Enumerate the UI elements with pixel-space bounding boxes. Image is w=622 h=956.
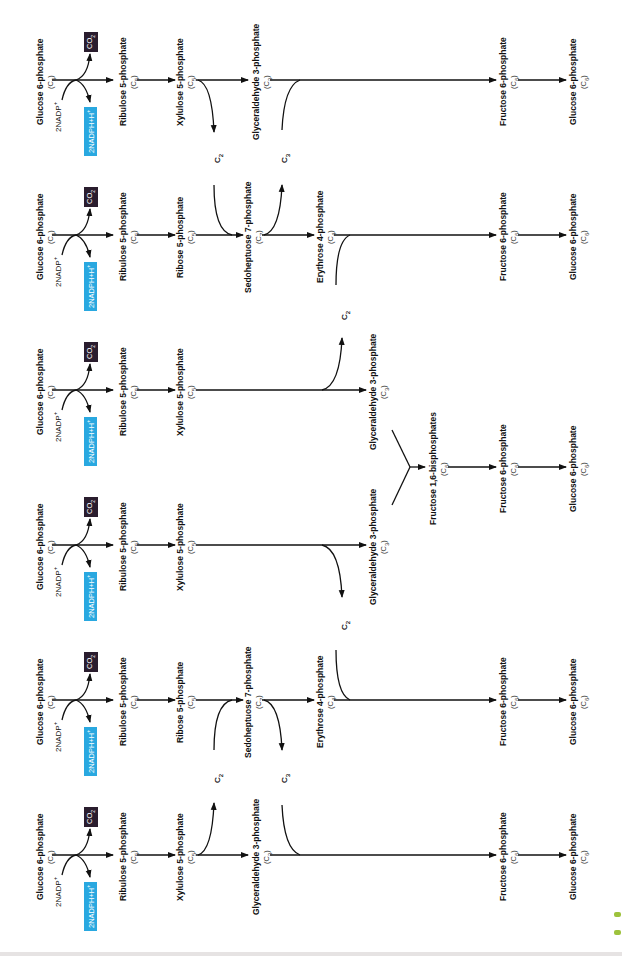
aldolase-merge-line (392, 430, 410, 467)
compound-name: Glucose 6-phosphate (36, 349, 45, 435)
co2-release-arrow (76, 54, 90, 80)
carbon-count: (C6) (47, 75, 57, 89)
c2-out-arrow (198, 80, 214, 132)
carbon-count: (C5) (187, 695, 197, 709)
carbon-count: (C6) (47, 850, 57, 864)
c2-in-line (214, 185, 232, 235)
carbon-count: (C6) (510, 230, 520, 244)
nadp-label: 2NADP+ (52, 877, 63, 907)
compound-name: Ribulose 5-phosphate (119, 658, 128, 747)
carbon-count: (C6) (580, 462, 590, 476)
compound-name: Xylulose 5-phosphate (176, 38, 185, 126)
nadp-to-nadph-arrow (62, 545, 90, 567)
compound-name: Glucose 6-phosphate (569, 39, 578, 125)
carbon-fragment-label: C2 (214, 774, 224, 783)
carbon-count: (C6) (47, 385, 57, 399)
co2-box: CO2 (84, 652, 98, 672)
carbon-fragment-label: C2 (341, 621, 351, 630)
nadph-box: 2NADPH+H+ (84, 572, 97, 621)
carbon-count: (C4) (327, 695, 337, 709)
carbon-fragment-label: C3 (281, 774, 291, 783)
co2-release-arrow (76, 209, 90, 235)
compound-name: Ribose 5-phosphate (176, 196, 185, 277)
carbon-count: (C3) (380, 540, 390, 554)
co2-release-arrow (76, 519, 90, 545)
compound-name: Fructose 6-phosphate (499, 425, 508, 514)
c2-in-line (336, 650, 350, 700)
co2-box: CO2 (84, 187, 98, 207)
carbon-count: (C6) (580, 695, 590, 709)
compound-name: Glucose 6-phosphate (569, 814, 578, 900)
green-corner-mark (614, 912, 621, 917)
carbon-count: (C5) (130, 695, 140, 709)
carbon-count: (C6) (510, 462, 520, 476)
compound-name: Ribulose 5-phosphate (119, 813, 128, 902)
carbon-count: (C6) (47, 695, 57, 709)
carbon-count: (C6) (510, 695, 520, 709)
nadp-label: 2NADP+ (52, 412, 63, 442)
carbon-count: (C7) (255, 695, 265, 709)
nadph-box: 2NADPH+H+ (84, 727, 97, 776)
co2-release-arrow (76, 829, 90, 855)
c2-out-arrow (322, 338, 342, 390)
co2-box: CO2 (84, 807, 98, 827)
c3-in-line (282, 805, 300, 855)
carbon-count: (C5) (130, 230, 140, 244)
carbon-count: (C5) (187, 540, 197, 554)
page-bottom-edge (0, 952, 622, 956)
carbon-count: (C6) (510, 75, 520, 89)
compound-name: Ribulose 5-phosphate (119, 38, 128, 127)
compound-name: Sedoheptuose 7-phosphate (244, 646, 253, 757)
compound-name: Glyceraldehyde 3-phosphate (369, 489, 378, 605)
compound-name: Xylulose 5-phosphate (176, 348, 185, 436)
compound-name: Glucose 6-phosphate (36, 39, 45, 125)
compound-name: Fructose 1,6-bisphosphates (429, 413, 438, 526)
compound-name: Ribulose 5-phosphate (119, 503, 128, 592)
carbon-fragment-label: C2 (214, 154, 224, 163)
compound-name: Glyceraldehyde 3-phosphate (252, 799, 261, 915)
carbon-count: (C3) (263, 850, 273, 864)
c2-out-arrow (322, 545, 342, 597)
carbon-count: (C5) (187, 75, 197, 89)
carbon-count: (C5) (130, 850, 140, 864)
nadp-to-nadph-arrow (62, 855, 90, 877)
nadp-to-nadph-arrow (62, 390, 90, 412)
carbon-count: (C6) (440, 462, 450, 476)
co2-release-arrow (76, 364, 90, 390)
carbon-count: (C6) (580, 850, 590, 864)
carbon-count: (C6) (47, 540, 57, 554)
nadph-box: 2NADPH+H+ (84, 262, 97, 311)
compound-name: Glucose 6-phosphate (569, 194, 578, 280)
compound-name: Erythrose 4-phosphate (316, 191, 325, 284)
carbon-count: (C5) (187, 385, 197, 399)
compound-name: Xylulose 5-phosphate (176, 813, 185, 901)
compound-name: Glucose 6-phosphate (569, 659, 578, 745)
compound-name: Fructose 6-phosphate (499, 658, 508, 747)
nadp-to-nadph-arrow (62, 80, 90, 102)
compound-name: Glucose 6-phosphate (36, 814, 45, 900)
compound-name: Xylulose 5-phosphate (176, 503, 185, 591)
carbon-count: (C3) (263, 75, 273, 89)
nadp-label: 2NADP+ (52, 102, 63, 132)
c3-out-arrow (264, 700, 282, 750)
co2-box: CO2 (84, 497, 98, 517)
nadp-to-nadph-arrow (62, 235, 90, 257)
c3-in-line (282, 80, 300, 130)
compound-name: Fructose 6-phosphate (499, 38, 508, 127)
nadp-label: 2NADP+ (52, 257, 63, 287)
compound-name: Ribose 5-phosphate (176, 661, 185, 742)
nadph-box: 2NADPH+H+ (84, 882, 97, 931)
nadph-box: 2NADPH+H+ (84, 107, 97, 156)
compound-name: Fructose 6-phosphate (499, 193, 508, 282)
c2-out-arrow (198, 803, 214, 855)
green-corner-mark (614, 930, 621, 935)
nadph-box: 2NADPH+H+ (84, 417, 97, 466)
compound-name: Ribulose 5-phosphate (119, 348, 128, 437)
nadp-label: 2NADP+ (52, 567, 63, 597)
compound-name: Sedoheptuose 7-phosphate (244, 181, 253, 292)
compound-name: Glucose 6-phosphate (569, 426, 578, 512)
compound-name: Glyceraldehyde 3-phosphate (252, 24, 261, 140)
carbon-count: (C5) (130, 385, 140, 399)
compound-name: Glyceraldehyde 3-phosphate (369, 334, 378, 450)
carbon-count: (C7) (255, 230, 265, 244)
